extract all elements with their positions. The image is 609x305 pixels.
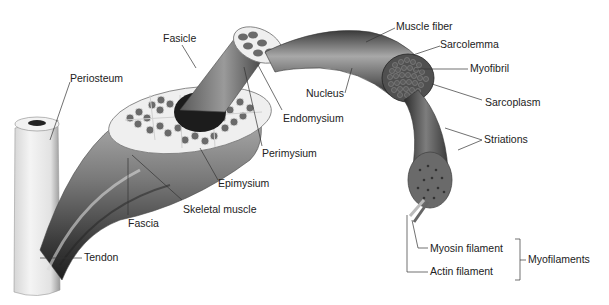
label-perimysium: Perimysium: [262, 148, 317, 159]
bone-tendon-shape: [14, 117, 60, 296]
label-muscle-fiber: Muscle fiber: [396, 21, 453, 32]
label-tendon: Tendon: [84, 252, 118, 263]
label-nucleus: Nucleus: [306, 88, 344, 99]
label-actin-filament: Actin filament: [430, 266, 493, 277]
label-myofibril: Myofibril: [470, 63, 509, 74]
muscle-anatomy-diagram: Periosteum Fasicle Endomysium Perimysium…: [0, 0, 609, 305]
myofibril-shape: [404, 90, 452, 208]
label-periosteum: Periosteum: [70, 73, 123, 84]
label-fasicle: Fasicle: [163, 33, 196, 44]
label-endomysium: Endomysium: [283, 113, 344, 124]
label-skeletal-muscle: Skeletal muscle: [183, 204, 257, 215]
label-myosin-filament: Myosin filament: [430, 243, 503, 254]
label-sarcolemma: Sarcolemma: [440, 39, 499, 50]
label-striations: Striations: [484, 134, 528, 145]
label-sarcoplasm: Sarcoplasm: [485, 97, 540, 108]
label-myofilaments: Myofilaments: [528, 254, 590, 265]
label-epimysium: Epimysium: [218, 178, 269, 189]
label-fascia: Fascia: [128, 218, 159, 229]
